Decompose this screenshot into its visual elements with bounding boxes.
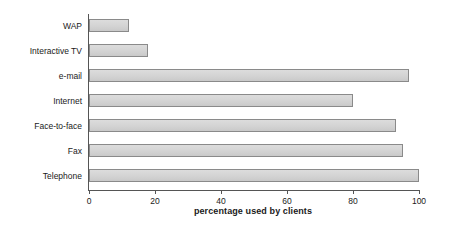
bar-interactive-tv: [89, 44, 148, 57]
x-axis-title: percentage used by clients: [88, 206, 418, 216]
x-tick-mark-0: [89, 190, 90, 194]
category-label-face-to-face: Face-to-face: [34, 120, 82, 132]
x-tick-label-80: 80: [338, 196, 368, 206]
x-tick-label-40: 40: [206, 196, 236, 206]
x-tick-mark-60: [287, 190, 288, 194]
x-tick-label-60: 60: [272, 196, 302, 206]
bar-chart: Channel WAP Interactive TV e-mail Intern…: [0, 0, 466, 241]
bar-wap: [89, 19, 129, 32]
bar-fax: [89, 144, 403, 157]
x-tick-mark-80: [353, 190, 354, 194]
category-label-fax: Fax: [68, 145, 82, 157]
bar-internet: [89, 94, 353, 107]
x-tick-mark-40: [221, 190, 222, 194]
category-label-interactive-tv: Interactive TV: [30, 45, 82, 57]
x-tick-label-20: 20: [140, 196, 170, 206]
category-label-wap: WAP: [63, 20, 82, 32]
category-label-internet: Internet: [53, 95, 82, 107]
plot-area: 0 20 40 60 80 100: [88, 14, 418, 190]
x-tick-label-0: 0: [74, 196, 104, 206]
x-tick-mark-100: [419, 190, 420, 194]
x-tick-mark-20: [155, 190, 156, 194]
category-axis-labels: WAP Interactive TV e-mail Internet Face-…: [18, 14, 86, 190]
bar-face-to-face: [89, 119, 396, 132]
bar-telephone: [89, 169, 419, 182]
x-tick-label-100: 100: [404, 196, 434, 206]
x-axis-line: [88, 190, 419, 191]
category-label-telephone: Telephone: [43, 170, 82, 182]
category-label-email: e-mail: [59, 70, 82, 82]
bar-email: [89, 69, 409, 82]
